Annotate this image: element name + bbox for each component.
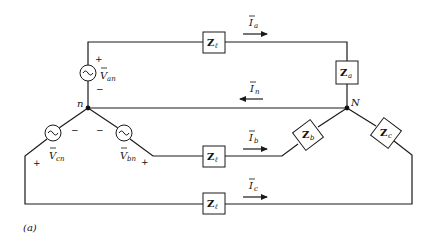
svg-text:Z: Z (207, 198, 214, 209)
node-N-dot (345, 106, 350, 111)
svg-text:a: a (254, 22, 258, 30)
svg-text:c: c (254, 185, 258, 193)
source-vbn: − + V bn (96, 125, 149, 167)
svg-text:Z: Z (340, 67, 347, 78)
line-impedance-c: Z ℓ (203, 193, 225, 214)
van-minus: − (96, 84, 104, 94)
vbn-minus: − (96, 125, 104, 135)
node-n-label: n (77, 98, 83, 109)
vcn-plus: + (33, 158, 41, 168)
load-impedance-a: Z a (336, 61, 358, 84)
vcn-minus: − (71, 125, 79, 135)
vbn-subscript: bn (127, 155, 136, 163)
svg-text:Z: Z (207, 37, 214, 48)
source-van: + − V an (80, 54, 116, 94)
svg-text:Z: Z (302, 129, 309, 140)
svg-text:b: b (254, 137, 259, 145)
current-ia: I a (243, 16, 267, 34)
current-ic: I c (243, 179, 267, 197)
N-to-zc (347, 108, 376, 126)
van-plus: + (95, 54, 103, 64)
van-subscript: an (107, 75, 116, 83)
svg-text:Z: Z (380, 127, 387, 138)
svg-text:n: n (255, 88, 260, 96)
figure-caption: (a) (23, 222, 37, 233)
circuit-diagram: n N + − V an − + V cn − + V bn Z ℓ Z (0, 0, 437, 237)
svg-text:ℓ: ℓ (214, 156, 218, 164)
vbn-plus: + (141, 157, 149, 167)
svg-text:ℓ: ℓ (214, 42, 218, 50)
zb-to-N (318, 108, 347, 127)
current-ib: I b (243, 131, 267, 149)
source-vcn: − + V cn (33, 125, 79, 168)
node-n-dot (86, 106, 91, 111)
load-impedance-b: Z b (293, 120, 324, 151)
svg-text:c: c (388, 132, 392, 140)
node-N-label: N (350, 97, 361, 108)
line-impedance-b: Z ℓ (203, 146, 225, 167)
current-in: I n (240, 82, 263, 99)
vcn-subscript: cn (56, 155, 65, 163)
svg-text:Z: Z (207, 151, 214, 162)
svg-text:a: a (348, 72, 352, 80)
svg-text:ℓ: ℓ (214, 203, 218, 211)
svg-text:b: b (310, 134, 315, 142)
line-impedance-a: Z ℓ (203, 32, 225, 53)
